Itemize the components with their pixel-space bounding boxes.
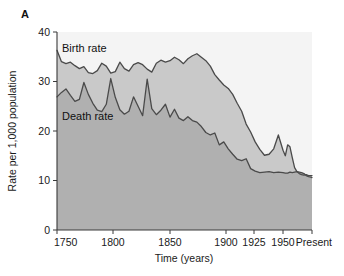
x-tick-label: Present: [296, 236, 332, 248]
birth-rate-label: Birth rate: [62, 42, 107, 54]
y-tick-label: 10: [38, 174, 50, 186]
y-tick-label: 40: [38, 26, 50, 38]
y-tick-label: 20: [38, 125, 50, 137]
y-tick-label: 0: [44, 224, 50, 236]
x-axis-title: Time (years): [155, 252, 214, 264]
x-tick-label: 1850: [158, 236, 182, 248]
y-axis-title: Rate per 1,000 population: [6, 70, 18, 191]
chart-canvas: A 010203040 175018001850190019251950Pres…: [0, 0, 344, 276]
x-tick-label: 1750: [54, 236, 78, 248]
death-rate-label: Death rate: [62, 110, 113, 122]
x-tick-label: 1900: [214, 236, 238, 248]
x-tick-label: 1950: [271, 236, 295, 248]
demographic-transition-figure: A 010203040 175018001850190019251950Pres…: [0, 0, 344, 276]
x-tick-label: 1800: [101, 236, 125, 248]
x-tick-label: 1925: [242, 236, 266, 248]
plot-area: [57, 32, 312, 230]
panel-label: A: [21, 8, 29, 20]
y-tick-label: 30: [38, 75, 50, 87]
